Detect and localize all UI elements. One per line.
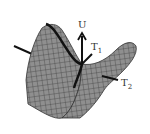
- saddle-surface-diagram: [0, 0, 150, 134]
- label-u: U: [78, 20, 86, 30]
- label-t2-text: T: [121, 77, 128, 88]
- label-u-text: U: [78, 19, 86, 30]
- t1-vector: [82, 54, 92, 64]
- axis-line-left: [14, 46, 32, 54]
- label-t1-text: T: [91, 41, 98, 52]
- label-t1-sub: 1: [98, 47, 102, 55]
- label-t2: T2: [121, 78, 132, 91]
- label-t1: T1: [91, 42, 102, 55]
- label-t2-sub: 2: [128, 83, 132, 91]
